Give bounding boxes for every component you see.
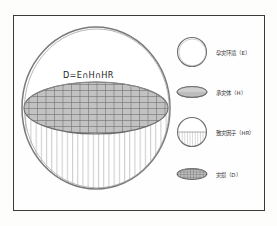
legend-label-hazard-factor: 致灾因子（HR） bbox=[216, 130, 255, 137]
legend-symbol-circle-hatched-lower bbox=[174, 114, 210, 150]
legend-label-bearing-body: 承灾体（H） bbox=[216, 90, 246, 97]
legend-item-disaster-loss: 灾损（D） bbox=[172, 156, 264, 194]
legend-item-hazard-factor: 致灾因子（HR） bbox=[172, 114, 264, 152]
sphere-svg bbox=[20, 24, 175, 199]
legend-item-bearing-body: 承灾体（H） bbox=[172, 74, 264, 112]
legend: 孕灾环境（E） 承灾体（H） bbox=[172, 30, 264, 198]
legend-label-disaster-loss: 灾损（D） bbox=[216, 172, 241, 179]
sphere-diagram: D=E∩H∩HR bbox=[20, 24, 175, 199]
figure-frame: D=E∩H∩HR 孕灾环境（E） bbox=[13, 15, 265, 211]
legend-symbol-empty-circle bbox=[174, 34, 210, 70]
legend-symbol-hatched-ellipse bbox=[174, 156, 210, 192]
legend-symbol-shaded-ellipse bbox=[174, 74, 210, 110]
legend-item-environment: 孕灾环境（E） bbox=[172, 34, 264, 72]
figure-root: D=E∩H∩HR 孕灾环境（E） bbox=[0, 0, 277, 226]
formula-label: D=E∩H∩HR bbox=[63, 70, 114, 80]
legend-label-environment: 孕灾环境（E） bbox=[216, 50, 250, 57]
